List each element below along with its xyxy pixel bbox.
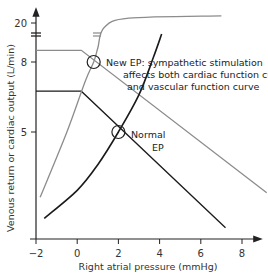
x-tick-label: 0: [74, 248, 80, 259]
y-tick-label: 5: [21, 127, 27, 138]
y-tick-label: 8: [21, 57, 27, 68]
new-cardiac-function-curve: [40, 16, 221, 198]
y-axis-title: Venous return or cardiac output (L/min): [5, 44, 16, 232]
y-tick-label: 20: [14, 18, 27, 29]
x-tick-label: 2: [115, 248, 121, 259]
x-tick-label: 6: [198, 248, 204, 259]
x-tick-label: 4: [156, 248, 162, 259]
x-axis-title: Right atrial pressure (mmHg): [79, 261, 218, 272]
new-ep-annotation-line-3: and vascular function curve: [127, 81, 260, 92]
x-tick-label: 8: [239, 248, 245, 259]
normal-ep-annotation-line-2: EP: [152, 142, 164, 153]
x-tick-label: −2: [29, 248, 44, 259]
normal-ep-annotation-line-1: Normal: [131, 129, 165, 140]
new-ep-annotation-line-1: New EP: sympathetic stimulation: [106, 57, 263, 68]
new-ep-annotation-line-2: affects both cardiac function curve: [123, 69, 268, 80]
chart: −202468 5820 Right atrial pressure (mmHg…: [0, 0, 268, 279]
